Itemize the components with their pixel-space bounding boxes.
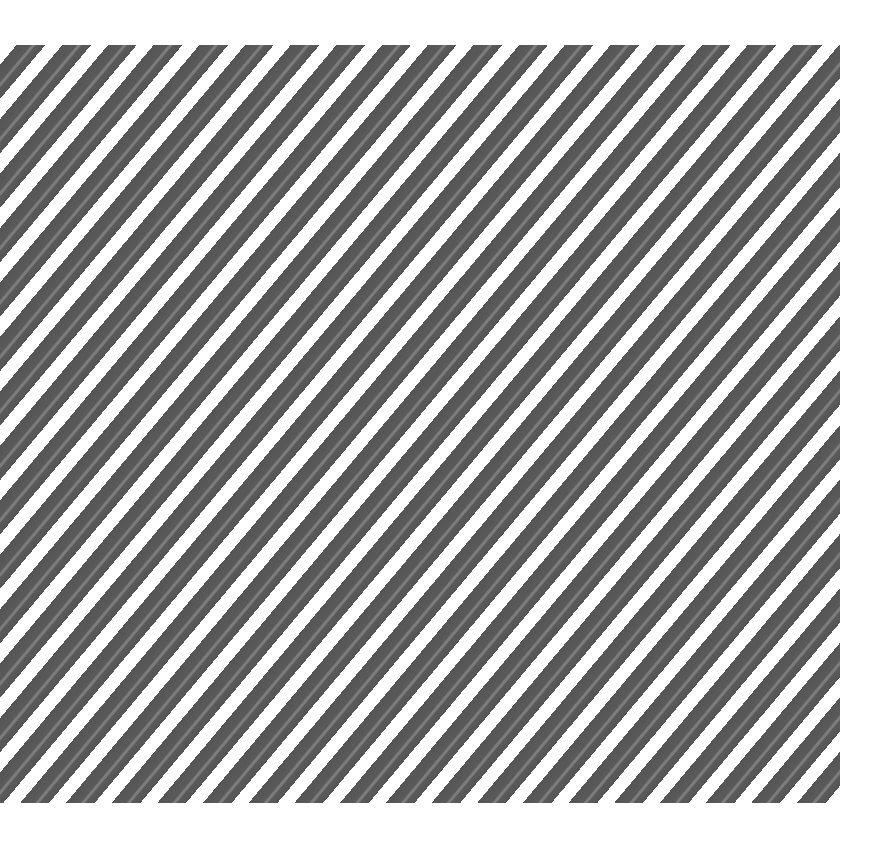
diagonal-stripe-pattern bbox=[0, 45, 840, 803]
